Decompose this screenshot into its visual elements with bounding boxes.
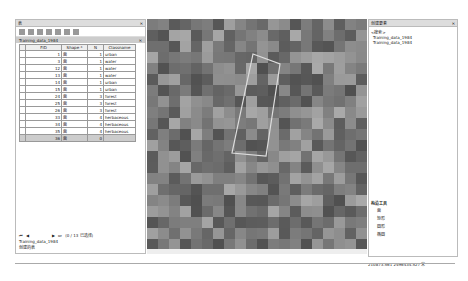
next-record-icon[interactable]: ▶ (52, 233, 55, 238)
raster-pixel (345, 52, 356, 63)
cell-fid[interactable]: 3 (26, 58, 62, 65)
delete-selected-icon[interactable] (73, 29, 79, 35)
cell-n[interactable]: 1 (88, 58, 104, 65)
footer-button[interactable]: 创建的表 (16, 244, 145, 250)
switch-selection-icon[interactable] (46, 29, 52, 35)
cell-n[interactable]: 1 (88, 86, 104, 93)
table-row[interactable]: 24面3forest (20, 93, 136, 100)
cell-classname[interactable]: herbaceous (104, 128, 136, 135)
cell-fid[interactable]: 24 (26, 93, 62, 100)
cell-fid[interactable]: 14 (26, 79, 62, 86)
table-row[interactable]: 15面1urban (20, 86, 136, 93)
cell-fid[interactable]: 1 (26, 51, 62, 58)
raster-pixel (202, 184, 213, 195)
raster-pixel (268, 41, 279, 52)
cell-fid[interactable]: 15 (26, 86, 62, 93)
cell-shape[interactable]: 面 (62, 72, 88, 79)
raster-pixel (158, 184, 169, 195)
raster-pixel (334, 52, 345, 63)
tool-item[interactable]: 圆形 (371, 222, 456, 230)
cell-n[interactable]: 3 (88, 107, 104, 114)
cell-classname[interactable]: water (104, 65, 136, 72)
cell-n[interactable]: 1 (88, 79, 104, 86)
cell-shape[interactable]: 面 (62, 51, 88, 58)
table-row[interactable]: 36面0 (20, 135, 136, 142)
cell-classname[interactable]: herbaceous (104, 121, 136, 128)
cell-fid[interactable]: 33 (26, 114, 62, 121)
cell-n[interactable]: 4 (88, 121, 104, 128)
cell-classname[interactable]: urban (104, 86, 136, 93)
cell-classname[interactable]: forest (104, 100, 136, 107)
table-row[interactable]: 12面1water (20, 65, 136, 72)
cell-n[interactable]: 4 (88, 128, 104, 135)
cell-shape[interactable]: 面 (62, 114, 88, 121)
cell-n[interactable]: 1 (88, 72, 104, 79)
cell-n[interactable]: 1 (88, 51, 104, 58)
clear-selection-icon[interactable] (55, 29, 61, 35)
table-row[interactable]: 34面4herbaceous (20, 121, 136, 128)
cell-fid[interactable]: 26 (26, 107, 62, 114)
close-icon[interactable]: ✕ (140, 21, 143, 26)
table-row[interactable]: 3面1water (20, 58, 136, 65)
cell-fid[interactable]: 36 (26, 135, 62, 142)
zoom-to-selected-icon[interactable] (64, 29, 70, 35)
raster-pixel (334, 195, 345, 206)
cell-classname[interactable]: water (104, 58, 136, 65)
last-record-icon[interactable]: ⏭ (58, 233, 62, 238)
cell-fid[interactable]: 12 (26, 65, 62, 72)
select-by-attributes-icon[interactable] (37, 29, 43, 35)
table-row[interactable]: 25面3forest (20, 100, 136, 107)
cell-shape[interactable]: 面 (62, 86, 88, 93)
raster-pixel (312, 206, 323, 217)
cell-shape[interactable]: 面 (62, 128, 88, 135)
cell-n[interactable]: 1 (88, 65, 104, 72)
cell-classname[interactable]: forest (104, 93, 136, 100)
raster-pixel (323, 195, 334, 206)
tool-item[interactable]: 面 (371, 206, 456, 214)
cell-shape[interactable]: 面 (62, 107, 88, 114)
cell-shape[interactable]: 面 (62, 135, 88, 142)
table-row[interactable]: 33面4herbaceous (20, 114, 136, 121)
template-layer[interactable]: Training_data_1984 (369, 40, 457, 45)
table-row[interactable]: 35面4herbaceous (20, 128, 136, 135)
table-tab[interactable]: Training_data_1984✕ (16, 37, 145, 43)
cell-n[interactable]: 4 (88, 114, 104, 121)
table-options-icon[interactable] (19, 29, 25, 35)
cell-classname[interactable]: forest (104, 107, 136, 114)
table-row[interactable]: 1面1urban (20, 51, 136, 58)
cell-classname[interactable]: water (104, 72, 136, 79)
cell-classname[interactable] (104, 135, 136, 142)
cell-shape[interactable]: 面 (62, 100, 88, 107)
raster-pixel (301, 173, 312, 184)
template-search[interactable]: <搜索> (369, 27, 457, 35)
tool-item[interactable]: 矩形 (371, 214, 456, 222)
raster-pixel (202, 228, 213, 239)
first-record-icon[interactable]: ⏮ (19, 233, 23, 238)
raster-pixel (202, 41, 213, 52)
close-tab-icon[interactable]: ✕ (139, 38, 142, 43)
cell-shape[interactable]: 面 (62, 79, 88, 86)
cell-classname[interactable]: urban (104, 51, 136, 58)
cell-shape[interactable]: 面 (62, 121, 88, 128)
map-view[interactable] (147, 19, 367, 251)
cell-fid[interactable]: 13 (26, 72, 62, 79)
cell-n[interactable]: 3 (88, 93, 104, 100)
cell-shape[interactable]: 面 (62, 93, 88, 100)
table-row[interactable]: 26面3forest (20, 107, 136, 114)
cell-shape[interactable]: 面 (62, 58, 88, 65)
table-row[interactable]: 14面1urban (20, 79, 136, 86)
table-row[interactable]: 13面1water (20, 72, 136, 79)
prev-record-icon[interactable]: ◀ (26, 233, 29, 238)
cell-n[interactable]: 0 (88, 135, 104, 142)
cell-classname[interactable]: herbaceous (104, 114, 136, 121)
related-tables-icon[interactable] (28, 29, 34, 35)
close-panel-icon[interactable]: ✕ (452, 21, 455, 26)
cell-n[interactable]: 3 (88, 100, 104, 107)
cell-fid[interactable]: 25 (26, 100, 62, 107)
cell-fid[interactable]: 34 (26, 121, 62, 128)
cell-shape[interactable]: 面 (62, 65, 88, 72)
tool-item[interactable]: 椭圆 (371, 230, 456, 238)
cell-classname[interactable]: urban (104, 79, 136, 86)
cell-fid[interactable]: 35 (26, 128, 62, 135)
raster-pixel (279, 195, 290, 206)
